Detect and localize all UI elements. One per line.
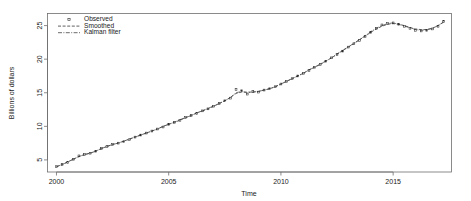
- line-chart: 510152025 2000200520102015 ObservedSmoot…: [0, 0, 471, 201]
- y-tick-label: 15: [36, 89, 43, 97]
- chart-background: [0, 0, 471, 201]
- x-tick-label: 2000: [49, 178, 65, 185]
- chart-figure: 510152025 2000200520102015 ObservedSmoot…: [0, 0, 471, 201]
- y-tick-label: 5: [36, 158, 43, 162]
- y-tick-label: 20: [36, 55, 43, 63]
- x-axis-label: Time: [241, 190, 256, 197]
- y-tick-label: 25: [36, 22, 43, 30]
- legend-label: Kalman filter: [84, 28, 121, 35]
- x-tick-label: 2015: [385, 178, 401, 185]
- x-tick-label: 2010: [273, 178, 289, 185]
- x-tick-label: 2005: [161, 178, 177, 185]
- y-tick-label: 10: [36, 122, 43, 130]
- y-axis-label: Billions of dollars: [8, 66, 15, 119]
